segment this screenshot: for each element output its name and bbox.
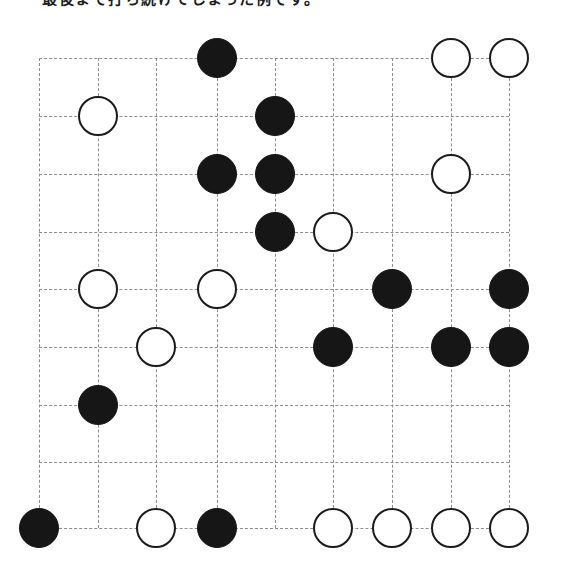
grid-column-line-6 xyxy=(333,58,334,528)
black-stone[interactable] xyxy=(197,508,237,548)
white-stone[interactable] xyxy=(78,96,118,136)
black-stone[interactable] xyxy=(197,38,237,78)
grid-column-line-8 xyxy=(451,58,452,528)
white-stone[interactable] xyxy=(313,212,353,252)
white-stone[interactable] xyxy=(431,38,471,78)
white-stone[interactable] xyxy=(136,508,176,548)
white-stone[interactable] xyxy=(489,508,529,548)
white-stone[interactable] xyxy=(78,269,118,309)
black-stone[interactable] xyxy=(489,327,529,367)
white-stone[interactable] xyxy=(431,508,471,548)
white-stone[interactable] xyxy=(372,508,412,548)
black-stone[interactable] xyxy=(313,327,353,367)
black-stone[interactable] xyxy=(255,212,295,252)
black-stone[interactable] xyxy=(255,154,295,194)
black-stone[interactable] xyxy=(19,508,59,548)
white-stone[interactable] xyxy=(313,508,353,548)
grid-row-line-8 xyxy=(39,462,509,463)
black-stone[interactable] xyxy=(78,385,118,425)
black-stone[interactable] xyxy=(197,154,237,194)
grid-column-line-1 xyxy=(39,58,40,528)
go-board-diagram xyxy=(0,0,562,574)
black-stone[interactable] xyxy=(431,327,471,367)
grid-column-line-3 xyxy=(156,58,157,528)
white-stone[interactable] xyxy=(489,38,529,78)
black-stone[interactable] xyxy=(372,269,412,309)
white-stone[interactable] xyxy=(197,269,237,309)
white-stone[interactable] xyxy=(431,154,471,194)
white-stone[interactable] xyxy=(136,327,176,367)
black-stone[interactable] xyxy=(489,269,529,309)
black-stone[interactable] xyxy=(255,96,295,136)
